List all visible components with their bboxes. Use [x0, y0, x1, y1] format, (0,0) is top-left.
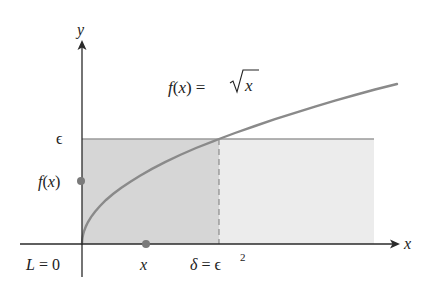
- sqrt-limit-diagram: y x f(x) = x ϵ f(x) L = 0 x δ = ϵ 2: [0, 0, 429, 297]
- radicand-label: x: [244, 76, 253, 95]
- fx-point: [77, 177, 85, 185]
- x-point-label: x: [139, 256, 147, 273]
- delta-label: δ = ϵ: [190, 256, 221, 273]
- light-region: [219, 139, 374, 244]
- y-axis-label: y: [75, 21, 85, 39]
- dark-region: [82, 139, 219, 244]
- fx-label: f(x): [38, 173, 60, 191]
- delta-exponent-label: 2: [240, 251, 246, 263]
- epsilon-label: ϵ: [56, 130, 63, 147]
- x-axis-label: x: [403, 235, 411, 252]
- function-label: f(x) =: [168, 78, 205, 97]
- x-point: [142, 240, 150, 248]
- limit-label: L = 0: [25, 256, 60, 273]
